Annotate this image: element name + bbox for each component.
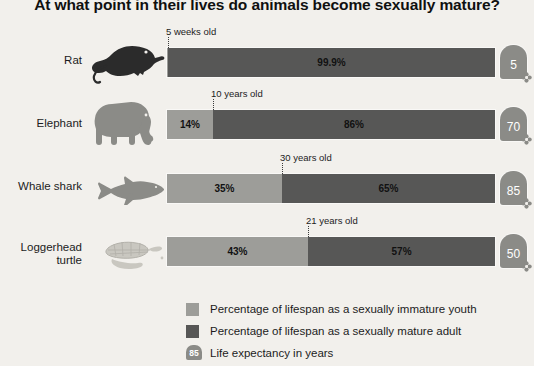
life-expectancy-badge-elephant: 70	[500, 107, 527, 141]
legend-swatch-youth-icon	[186, 303, 199, 316]
row-label-loggerhead-turtle: Loggerhead turtle	[0, 241, 82, 267]
marker-dotted-line-elephant	[213, 99, 214, 110]
loggerhead-turtle-silhouette-icon	[88, 236, 166, 272]
bar-segment-adult-rat: 99.9%	[168, 48, 495, 77]
legend-item-adult: Percentage of lifespan as a sexually mat…	[186, 322, 516, 344]
legend-item-youth: Percentage of lifespan as a sexually imm…	[186, 300, 516, 322]
infographic-canvas: At what point in their lives do animals …	[0, 0, 534, 366]
life-expectancy-badge-whale-shark: 85	[500, 171, 527, 205]
marker-dotted-line-rat	[168, 37, 169, 48]
marker-label-rat: 5 weeks old	[166, 26, 216, 37]
bar-label-youth-whale-shark: 35%	[167, 174, 282, 203]
bar-segment-adult-whale-shark: 65%	[282, 174, 495, 203]
bar-segment-adult-loggerhead-turtle: 57%	[308, 237, 495, 266]
marker-label-loggerhead-turtle: 21 years old	[306, 215, 358, 226]
stacked-bar-loggerhead-turtle: 43% 57%	[167, 237, 495, 266]
bar-label-youth-elephant: 14%	[167, 110, 213, 139]
bar-label-adult-elephant: 86%	[213, 110, 534, 139]
stacked-bar-elephant: 14% 86%	[167, 110, 495, 139]
stacked-bar-whale-shark: 35% 65%	[167, 174, 495, 203]
life-expectancy-badge-rat: 5	[500, 45, 527, 79]
legend-label-adult: Percentage of lifespan as a sexually mat…	[210, 322, 461, 341]
life-expectancy-value-elephant: 70	[507, 120, 520, 134]
row-label-whale-shark: Whale shark	[0, 180, 82, 193]
bar-label-adult-rat: 99.9%	[168, 48, 534, 77]
bar-segment-youth-whale-shark: 35%	[167, 174, 282, 203]
bar-segment-youth-loggerhead-turtle: 43%	[167, 237, 308, 266]
legend-swatch-adult-icon	[186, 325, 199, 338]
marker-label-whale-shark: 30 years old	[280, 152, 332, 163]
stacked-bar-rat: 99.9%	[167, 48, 495, 77]
legend: Percentage of lifespan as a sexually imm…	[186, 300, 516, 366]
legend-label-life-expectancy: Life expectancy in years	[210, 344, 333, 363]
life-expectancy-badge-loggerhead-turtle: 50	[500, 234, 527, 268]
bar-label-youth-loggerhead-turtle: 43%	[167, 237, 308, 266]
rat-silhouette-icon	[88, 40, 166, 84]
row-label-elephant: Elephant	[0, 117, 82, 130]
flower-icon	[521, 261, 532, 272]
life-expectancy-value-whale-shark: 85	[507, 184, 520, 198]
flower-icon	[521, 198, 532, 209]
whale-shark-silhouette-icon	[88, 173, 166, 205]
row-label-rat: Rat	[0, 54, 82, 67]
flower-icon	[521, 72, 532, 83]
life-expectancy-value-loggerhead-turtle: 50	[507, 247, 520, 261]
life-expectancy-value-rat: 5	[510, 58, 517, 72]
legend-item-life-expectancy: 85 Life expectancy in years	[186, 344, 516, 366]
legend-badge-icon: 85	[186, 345, 202, 360]
flower-icon	[521, 134, 532, 145]
marker-label-elephant: 10 years old	[211, 88, 263, 99]
bar-label-adult-whale-shark: 65%	[282, 174, 534, 203]
legend-label-youth: Percentage of lifespan as a sexually imm…	[210, 300, 477, 319]
bar-segment-adult-elephant: 86%	[213, 110, 495, 139]
elephant-silhouette-icon	[88, 100, 166, 148]
page-title: At what point in their lives do animals …	[0, 0, 534, 14]
bar-segment-youth-elephant: 14%	[167, 110, 213, 139]
marker-dotted-line-whale-shark	[282, 163, 283, 174]
marker-dotted-line-loggerhead-turtle	[308, 226, 309, 237]
